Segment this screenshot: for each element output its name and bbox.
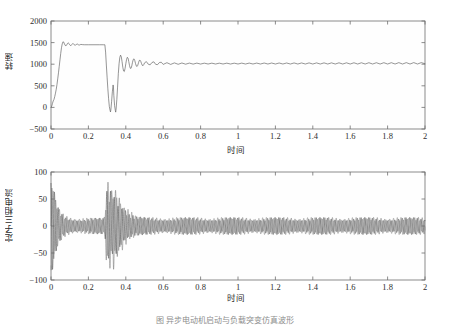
x-tick-label: 1.8 — [382, 131, 393, 141]
x-tick-label: 2 — [423, 131, 427, 141]
y-tick-label: 1000 — [30, 59, 47, 69]
x-tick-label: 1.2 — [270, 282, 281, 292]
y-tick-label: 100 — [34, 167, 47, 177]
y-tick-label: −500 — [29, 124, 47, 134]
x-tick-label: 0.6 — [158, 282, 169, 292]
figure-caption: 图 异步电动机启动与负载突变仿真波形 — [0, 314, 450, 325]
current-chart-panel: 定子三相电流 00.20.40.60.811.21.41.61.82−100−5… — [0, 160, 450, 310]
y-tick-label: 2000 — [30, 16, 47, 26]
current-plot-svg: 00.20.40.60.811.21.41.61.82−100−50050100 — [0, 160, 450, 310]
speed-chart-panel: 转速 00.20.40.60.811.21.41.61.82−500050010… — [0, 0, 450, 160]
x-tick-label: 1 — [236, 131, 240, 141]
y-tick-label: 0 — [43, 221, 47, 231]
x-tick-label: 0.8 — [195, 131, 206, 141]
y-tick-label: −50 — [34, 248, 47, 258]
x-tick-label: 2 — [423, 282, 427, 292]
current-y-axis-label: 定子三相电流 — [4, 188, 16, 242]
speed-plot-svg: 00.20.40.60.811.21.41.61.82−500050010001… — [0, 0, 450, 160]
speed-y-axis-label: 转速 — [4, 52, 16, 70]
y-tick-label: 50 — [39, 194, 48, 204]
y-tick-label: −100 — [29, 275, 47, 285]
current-x-axis-label: 时间 — [227, 291, 245, 303]
y-tick-label: 0 — [43, 102, 47, 112]
x-tick-label: 1.8 — [382, 282, 393, 292]
x-tick-label: 1.6 — [345, 282, 356, 292]
x-tick-label: 1.2 — [270, 131, 281, 141]
speed-x-axis-label: 时间 — [227, 143, 245, 155]
y-tick-label: 500 — [34, 81, 47, 91]
x-tick-label: 0.6 — [158, 131, 169, 141]
x-tick-label: 0.2 — [83, 131, 94, 141]
x-tick-label: 0.2 — [83, 282, 94, 292]
x-tick-label: 0.4 — [120, 131, 131, 141]
x-tick-label: 1.6 — [345, 131, 356, 141]
x-tick-label: 0.4 — [120, 282, 131, 292]
x-tick-label: 0.8 — [195, 282, 206, 292]
x-tick-label: 1.4 — [307, 131, 318, 141]
x-tick-label: 0 — [49, 282, 53, 292]
x-tick-label: 0 — [49, 131, 53, 141]
y-tick-label: 1500 — [30, 38, 47, 48]
x-tick-label: 1.4 — [307, 282, 318, 292]
